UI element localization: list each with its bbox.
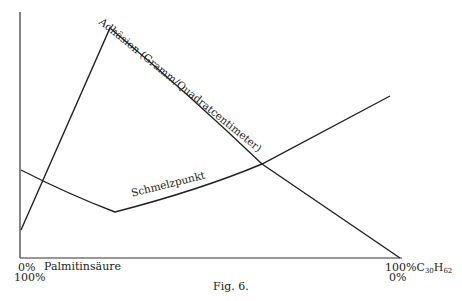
schmelzpunkt-curve xyxy=(21,96,390,212)
x-right-formula: C30H62 xyxy=(416,261,452,274)
x-left-name-label: Palmitinsäure xyxy=(44,261,121,272)
figure-caption: Fig. 6. xyxy=(213,281,249,292)
adhaesion-curve xyxy=(21,28,400,258)
chart-canvas xyxy=(0,0,462,301)
x-right-bottom-label: 0% xyxy=(389,272,406,283)
x-left-bottom-label: 100% xyxy=(14,272,45,283)
